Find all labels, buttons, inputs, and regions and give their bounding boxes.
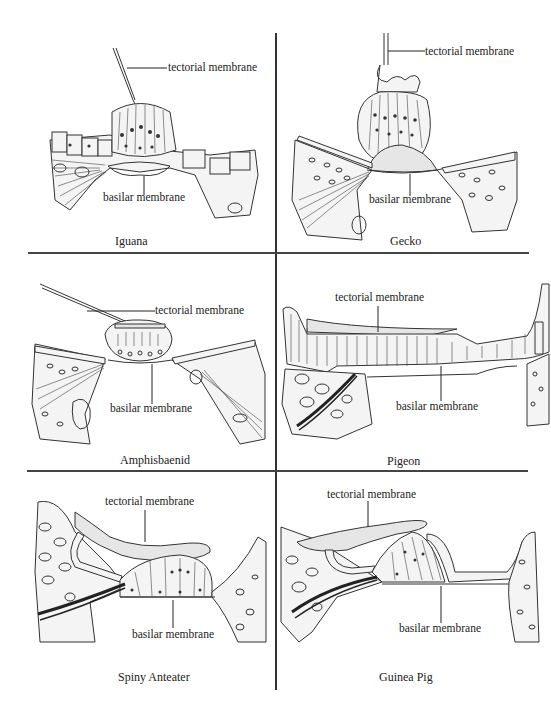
basilar-membrane-label: basilar membrane bbox=[103, 191, 185, 203]
panel-spiny-anteater: tectorial membrane basilar membrane Spin… bbox=[0, 472, 275, 723]
amphisbaenid-cochlea-illustration bbox=[0, 254, 275, 470]
panel-caption: Gecko bbox=[390, 234, 421, 249]
panel-amphisbaenid: tectorial membrane basilar membrane Amph… bbox=[0, 254, 275, 470]
panel-pigeon: tectorial membrane basilar membrane Pige… bbox=[277, 254, 551, 470]
pigeon-cochlea-illustration bbox=[277, 254, 551, 470]
tectorial-membrane-label: tectorial membrane bbox=[105, 495, 194, 507]
panel-iguana: tectorial membrane basilar membrane Igua… bbox=[0, 0, 275, 252]
tectorial-membrane-label: tectorial membrane bbox=[335, 291, 424, 303]
basilar-membrane-label: basilar membrane bbox=[396, 400, 478, 412]
tectorial-membrane-label: tectorial membrane bbox=[155, 304, 244, 316]
panel-caption: Iguana bbox=[115, 234, 148, 249]
panel-caption: Amphisbaenid bbox=[120, 453, 190, 468]
panel-caption: Spiny Anteater bbox=[118, 670, 190, 685]
iguana-cochlea-illustration bbox=[0, 0, 275, 252]
tectorial-membrane-label: tectorial membrane bbox=[425, 45, 514, 57]
panel-caption: Guinea Pig bbox=[379, 670, 433, 685]
basilar-membrane-label: basilar membrane bbox=[369, 193, 451, 205]
basilar-membrane-label: basilar membrane bbox=[399, 622, 481, 634]
basilar-membrane-label: basilar membrane bbox=[132, 628, 214, 640]
spiny-anteater-cochlea-illustration bbox=[0, 472, 275, 723]
tectorial-membrane-label: tectorial membrane bbox=[168, 61, 257, 73]
panel-caption: Pigeon bbox=[387, 454, 420, 469]
tectorial-membrane-label: tectorial membrane bbox=[327, 488, 416, 500]
basilar-membrane-label: basilar membrane bbox=[110, 402, 192, 414]
gecko-cochlea-illustration bbox=[277, 0, 551, 252]
guinea-pig-cochlea-illustration bbox=[277, 472, 551, 723]
panel-gecko: tectorial membrane basilar membrane Geck… bbox=[277, 0, 551, 252]
panel-guinea-pig: tectorial membrane basilar membrane Guin… bbox=[277, 472, 551, 723]
